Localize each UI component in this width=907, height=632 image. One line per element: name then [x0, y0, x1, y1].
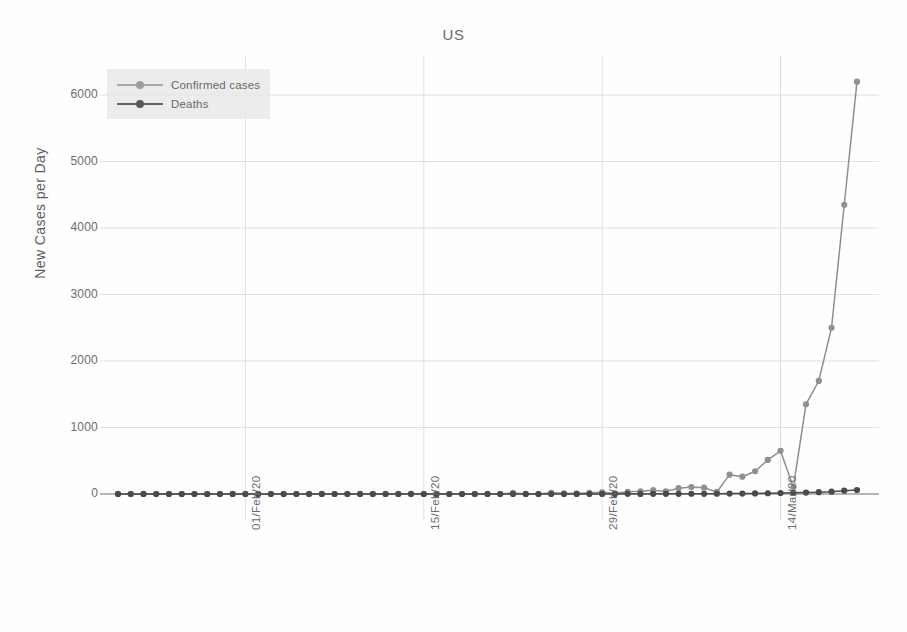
data-point-marker	[357, 491, 363, 497]
chart-container: US New Cases per Day 0100020003000400050…	[0, 0, 907, 632]
y-tick-label: 1000	[52, 420, 98, 434]
data-point-marker	[816, 489, 822, 495]
data-point-marker	[421, 491, 427, 497]
data-point-marker	[332, 491, 338, 497]
x-tick-label: 14/Mar/20	[786, 476, 798, 530]
data-point-marker	[676, 491, 682, 497]
y-tick-label: 4000	[52, 220, 98, 234]
data-point-marker	[484, 491, 490, 497]
data-point-marker	[242, 491, 248, 497]
data-point-marker	[472, 491, 478, 497]
data-point-marker	[828, 489, 834, 495]
data-point-marker	[523, 491, 529, 497]
data-point-marker	[803, 489, 809, 495]
data-point-marker	[739, 474, 745, 480]
legend-item-deaths: Deaths	[117, 96, 209, 112]
data-point-marker	[854, 79, 860, 85]
data-point-marker	[191, 491, 197, 497]
data-point-marker	[701, 485, 707, 491]
data-point-marker	[663, 491, 669, 497]
data-point-marker	[268, 491, 274, 497]
data-point-marker	[599, 491, 605, 497]
data-point-marker	[777, 490, 783, 496]
legend-label-deaths: Deaths	[171, 98, 209, 110]
data-point-marker	[688, 491, 694, 497]
data-point-marker	[535, 491, 541, 497]
data-point-marker	[382, 491, 388, 497]
x-tick-label: 15/Feb/20	[429, 476, 441, 531]
data-point-marker	[752, 468, 758, 474]
data-point-marker	[726, 472, 732, 478]
data-point-marker	[650, 491, 656, 497]
legend-line-marker-icon	[117, 98, 163, 110]
x-tick-label: 01/Feb/20	[250, 476, 262, 531]
data-point-marker	[204, 491, 210, 497]
data-point-marker	[319, 491, 325, 497]
legend-item-confirmed-cases: Confirmed cases	[117, 77, 260, 93]
data-point-marker	[497, 491, 503, 497]
data-point-marker	[548, 491, 554, 497]
data-point-marker	[281, 491, 287, 497]
data-point-marker	[752, 490, 758, 496]
data-point-marker	[408, 491, 414, 497]
data-point-marker	[765, 490, 771, 496]
data-point-marker	[688, 484, 694, 490]
y-tick-label: 6000	[52, 87, 98, 101]
data-point-marker	[828, 325, 834, 331]
data-point-marker	[166, 491, 172, 497]
data-point-marker	[765, 457, 771, 463]
data-point-marker	[777, 448, 783, 454]
data-point-marker	[726, 491, 732, 497]
legend-label-confirmed-cases: Confirmed cases	[171, 79, 260, 91]
data-point-marker	[574, 491, 580, 497]
data-point-marker	[344, 491, 350, 497]
y-tick-label: 0	[52, 486, 98, 500]
data-point-marker	[140, 491, 146, 497]
data-point-marker	[306, 491, 312, 497]
data-point-marker	[217, 491, 223, 497]
data-point-marker	[179, 491, 185, 497]
series-line-confirmed-cases	[118, 82, 857, 494]
data-point-marker	[841, 488, 847, 494]
data-point-marker	[739, 490, 745, 496]
chart-legend: Confirmed cases Deaths	[107, 69, 270, 119]
data-point-marker	[561, 491, 567, 497]
y-tick-label: 5000	[52, 154, 98, 168]
data-point-marker	[803, 401, 809, 407]
data-point-marker	[510, 491, 516, 497]
data-point-marker	[676, 485, 682, 491]
data-point-marker	[841, 202, 847, 208]
data-point-marker	[701, 491, 707, 497]
data-point-marker	[625, 491, 631, 497]
y-tick-label: 3000	[52, 287, 98, 301]
data-point-marker	[854, 487, 860, 493]
data-point-marker	[115, 491, 121, 497]
data-point-marker	[153, 491, 159, 497]
y-tick-label: 2000	[52, 353, 98, 367]
x-tick-label: 29/Feb/20	[607, 476, 619, 531]
data-point-marker	[714, 491, 720, 497]
data-point-marker	[816, 378, 822, 384]
data-point-marker	[459, 491, 465, 497]
data-point-marker	[230, 491, 236, 497]
data-point-marker	[370, 491, 376, 497]
legend-line-marker-icon	[117, 79, 163, 91]
data-point-marker	[395, 491, 401, 497]
data-point-marker	[586, 491, 592, 497]
data-point-marker	[128, 491, 134, 497]
data-point-marker	[446, 491, 452, 497]
data-point-marker	[293, 491, 299, 497]
data-point-marker	[637, 491, 643, 497]
